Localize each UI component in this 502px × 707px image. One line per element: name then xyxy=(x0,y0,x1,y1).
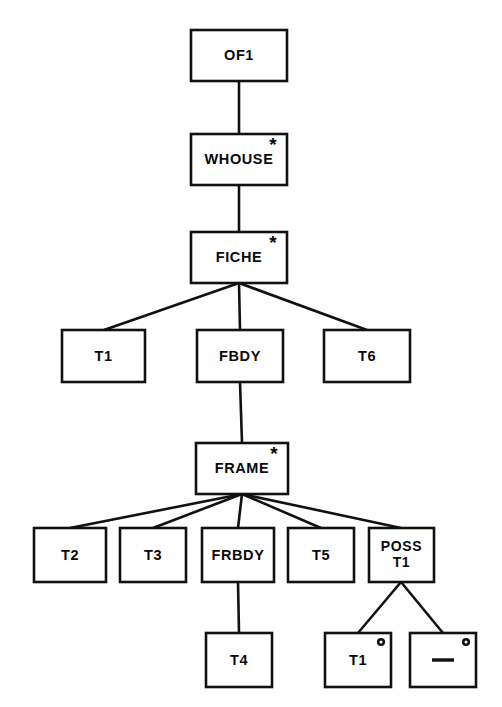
node-label-fbdy: FBDY xyxy=(219,348,261,364)
edge-poss-t1-to-dash xyxy=(401,582,443,633)
node-label-frame: FRAME xyxy=(215,460,270,476)
tree-diagram-svg: OF1WHOUSE*FICHE*T1FBDYT6FRAME*T2T3FRBDYT… xyxy=(0,0,502,707)
node-t4[interactable]: T4 xyxy=(206,633,272,687)
circle-marker-hole-t1-b xyxy=(380,641,383,644)
node-label-t4: T4 xyxy=(230,652,248,668)
node-label-t1-a: T1 xyxy=(94,348,112,364)
node-poss-t1[interactable]: POSST1 xyxy=(369,528,434,582)
node-dash[interactable] xyxy=(410,633,476,687)
node-label-t1-b: T1 xyxy=(349,652,367,668)
circle-marker-hole-dash xyxy=(465,641,468,644)
node-frbdy[interactable]: FRBDY xyxy=(202,528,274,582)
node-fiche[interactable]: FICHE* xyxy=(191,232,287,283)
edge-fbdy-to-frame xyxy=(240,382,242,443)
node-label-poss-t1-line-1: POSS xyxy=(381,538,422,554)
asterisk-marker-icon-fiche: * xyxy=(269,232,277,253)
edge-frame-to-t5 xyxy=(242,494,321,528)
node-t5[interactable]: T5 xyxy=(288,528,354,582)
node-label-whouse: WHOUSE xyxy=(205,151,274,167)
node-t1-b[interactable]: T1 xyxy=(325,633,391,687)
asterisk-marker-icon-whouse: * xyxy=(269,134,277,155)
node-label-poss-t1-line-2: T1 xyxy=(393,554,411,570)
node-label-t3: T3 xyxy=(144,547,162,563)
node-fbdy[interactable]: FBDY xyxy=(197,330,283,382)
node-of1[interactable]: OF1 xyxy=(191,30,287,81)
node-label-of1: OF1 xyxy=(224,47,254,63)
node-t1-a[interactable]: T1 xyxy=(62,330,145,382)
node-t6[interactable]: T6 xyxy=(324,330,410,382)
node-label-frbdy: FRBDY xyxy=(212,547,265,563)
node-whouse[interactable]: WHOUSE* xyxy=(191,134,287,185)
edge-frame-to-frbdy xyxy=(238,494,242,528)
edge-frame-to-t2 xyxy=(70,494,242,528)
edge-poss-t1-to-t1-b xyxy=(358,582,401,633)
edge-frbdy-to-t4 xyxy=(238,582,239,633)
asterisk-marker-icon-frame: * xyxy=(270,443,278,464)
edge-frame-to-poss-t1 xyxy=(242,494,401,528)
edge-fiche-to-t6 xyxy=(239,283,367,330)
node-label-t5: T5 xyxy=(312,547,330,563)
edge-fiche-to-fbdy xyxy=(239,283,240,330)
node-label-t2: T2 xyxy=(61,547,79,563)
tree-diagram-canvas: OF1WHOUSE*FICHE*T1FBDYT6FRAME*T2T3FRBDYT… xyxy=(0,0,502,707)
edge-fiche-to-t1-a xyxy=(104,283,239,330)
nodes-layer: OF1WHOUSE*FICHE*T1FBDYT6FRAME*T2T3FRBDYT… xyxy=(34,30,476,687)
edge-frame-to-t3 xyxy=(153,494,242,528)
node-label-t6: T6 xyxy=(358,348,376,364)
node-t3[interactable]: T3 xyxy=(120,528,186,582)
node-frame[interactable]: FRAME* xyxy=(196,443,288,494)
node-t2[interactable]: T2 xyxy=(34,528,106,582)
node-label-fiche: FICHE xyxy=(216,249,263,265)
